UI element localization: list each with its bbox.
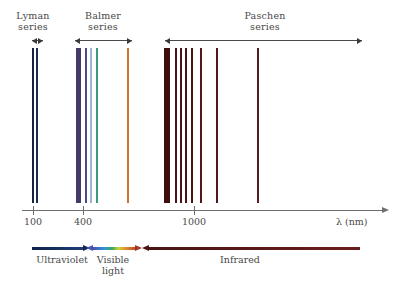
spectral-line-balmer-limit (76, 48, 81, 203)
axis-tick-label-1000: 1000 (182, 216, 206, 227)
lyman-range (32, 37, 43, 44)
spectral-line-h-green (96, 48, 98, 203)
spectral-line-pa-epsilon (191, 48, 193, 203)
spectral-line-h-beta (90, 48, 92, 203)
axis-arrow-icon (382, 207, 389, 213)
paschen-range-arrow-right-icon (357, 38, 362, 44)
balmer-range-arrow-left-icon (75, 38, 80, 44)
spectral-series-figure: Lyman seriesBalmer seriesPaschen series1… (0, 0, 401, 288)
wavelength-axis (22, 210, 384, 211)
band-infrared-shaft (148, 247, 360, 250)
series-label-paschen: Paschen series (235, 10, 295, 32)
spectral-line-pa-g (180, 48, 182, 203)
axis-title: λ (nm) (336, 216, 368, 227)
balmer-range-shaft (75, 40, 132, 41)
paschen-range-arrow-left-icon (165, 38, 170, 44)
spectral-line-pa-beta (216, 48, 218, 203)
series-label-lyman: Lyman series (6, 10, 60, 32)
axis-tick-label-100: 100 (24, 216, 42, 227)
lyman-range-arrow-right-icon (38, 38, 43, 44)
spectral-line-h-alpha (127, 48, 129, 203)
spectral-line-ly-alpha (36, 48, 38, 203)
paschen-range-shaft (165, 40, 362, 41)
series-label-balmer: Balmer series (76, 10, 130, 32)
balmer-range (75, 37, 132, 44)
spectral-line-pa-f (185, 48, 187, 203)
band-ultraviolet-shaft (32, 247, 84, 250)
band-infrared-arrow-left-icon (142, 245, 149, 251)
spectral-line-h-delta (85, 48, 87, 203)
band-label-visible-light: Visible light (86, 254, 140, 276)
spectral-line-pa-delta (200, 48, 202, 203)
axis-tick-label-400: 400 (74, 216, 92, 227)
balmer-range-arrow-right-icon (127, 38, 132, 44)
spectral-line-pa-h (175, 48, 177, 203)
band-visible-light-shaft (92, 247, 136, 250)
axis-tick-1000 (194, 206, 195, 215)
spectral-line-pa-limit (164, 48, 170, 203)
paschen-range (165, 37, 362, 44)
band-label-infrared: Infrared (200, 254, 280, 265)
lyman-range-arrow-left-icon (32, 38, 37, 44)
axis-tick-400 (83, 206, 84, 215)
band-visible-light-arrow-right-icon (135, 245, 142, 251)
band-infrared (148, 245, 360, 252)
spectral-line-pa-alpha (257, 48, 259, 203)
axis-tick-100 (33, 206, 34, 215)
band-visible-light-arrow-left-icon (86, 245, 93, 251)
spectral-line-ly-limit (32, 48, 34, 203)
band-ultraviolet (32, 245, 84, 252)
band-visible-light (92, 245, 136, 252)
